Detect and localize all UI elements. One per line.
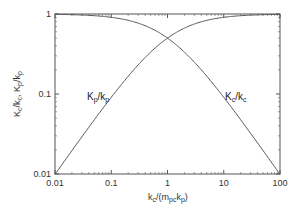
y-tick-label: 1 [46, 9, 51, 19]
x-tick-label: 0.01 [46, 178, 64, 188]
x-axis-ticks: 0.010.1110100 [46, 14, 287, 188]
x-tick-label: 10 [219, 178, 229, 188]
x-tick-label: 100 [272, 178, 287, 188]
y-tick-label: 0.1 [38, 89, 51, 99]
x-axis-label: kc/(mpckp) [148, 192, 188, 204]
y-axis-label: Kc/kc, Kp/kp [12, 71, 24, 117]
chart: 0.010.1110100 0.010.11 Kp/kp Kc/kc kc/(m… [0, 0, 300, 214]
y-tick-label: 0.01 [33, 169, 51, 179]
x-tick-label: 0.1 [105, 178, 118, 188]
series-kp-label: Kp/kp [87, 91, 109, 104]
series-kc-label: Kc/kc [225, 91, 247, 103]
x-tick-label: 1 [165, 178, 170, 188]
